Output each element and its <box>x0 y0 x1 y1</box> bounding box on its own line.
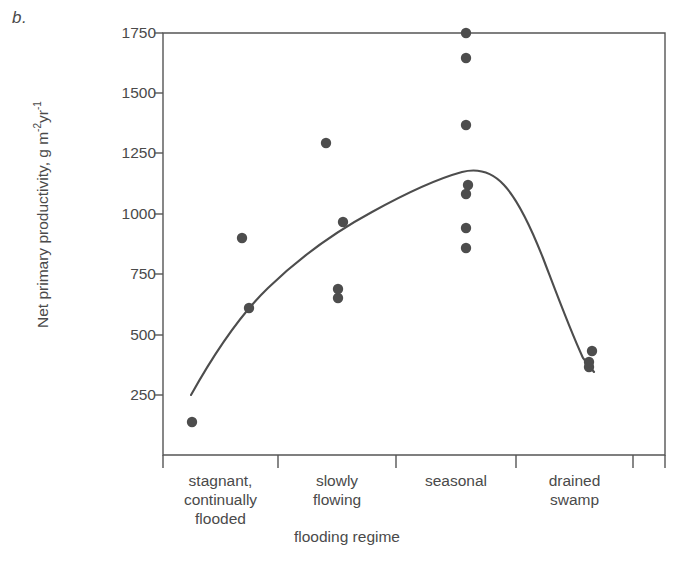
x-category-line: seasonal <box>396 472 516 491</box>
x-category-drained-swamp: drained swamp <box>516 472 633 510</box>
data-point <box>461 189 471 199</box>
data-point <box>463 180 473 190</box>
x-category-line: flowing <box>278 491 396 510</box>
data-point <box>461 28 471 38</box>
x-category-line: slowly <box>278 472 396 491</box>
x-axis-ticks <box>163 455 665 468</box>
data-point <box>461 223 471 233</box>
figure-panel: b. Net primary productivity, g m-2yr-1 1… <box>0 0 694 564</box>
fitted-trend-curve <box>191 171 594 395</box>
data-point <box>237 233 247 243</box>
data-point <box>333 284 343 294</box>
data-point <box>244 303 254 313</box>
data-point <box>587 346 597 356</box>
data-point <box>584 357 594 367</box>
data-point <box>461 120 471 130</box>
x-category-slowly-flowing: slowly flowing <box>278 472 396 510</box>
x-category-line: drained <box>516 472 633 491</box>
data-point <box>461 243 471 253</box>
data-point <box>461 53 471 63</box>
axis-frame <box>163 33 665 455</box>
x-category-line: swamp <box>516 491 633 510</box>
data-point <box>321 138 331 148</box>
x-category-line: stagnant, <box>163 472 278 491</box>
y-axis-ticks <box>154 33 163 395</box>
data-point <box>338 217 348 227</box>
x-category-line: flooded <box>163 510 278 529</box>
x-category-stagnant-continually-flooded: stagnant, continually flooded <box>163 472 278 529</box>
data-point <box>187 417 197 427</box>
x-axis-label: flooding regime <box>0 528 694 546</box>
x-category-seasonal: seasonal <box>396 472 516 491</box>
x-category-line: continually <box>163 491 278 510</box>
data-point <box>333 293 343 303</box>
data-points <box>187 28 597 427</box>
